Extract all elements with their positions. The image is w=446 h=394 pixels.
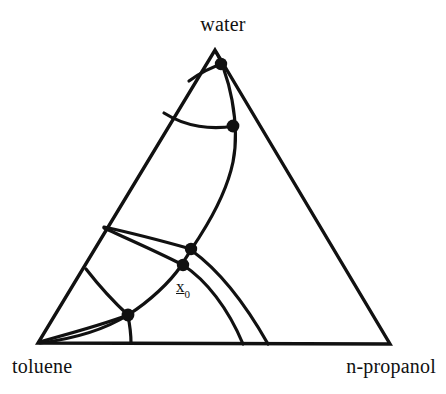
annotation-label-x0: x0 [176,277,190,298]
tie-line-3 [104,227,191,249]
node-point-2 [227,120,240,133]
annotation-symbol: x [176,277,185,297]
triangle-outline [38,50,390,344]
vertex-label-toluene: toluene [12,356,72,376]
tieline-curve-outer [191,250,268,344]
annotation-subscript: 0 [185,288,191,300]
node-point-1 [215,58,227,70]
node-point-3 [185,243,197,255]
vertex-label-n-propanol: n-propanol [346,356,436,376]
vertex-label-water: water [0,14,446,34]
ternary-diagram-svg [0,0,446,394]
node-point-5 [122,309,135,322]
tie-line-4 [86,269,128,315]
node-point-x0 [177,259,189,271]
binodal-curve [40,51,236,343]
ternary-diagram-root: water toluene n-propanol x0 [0,0,446,394]
